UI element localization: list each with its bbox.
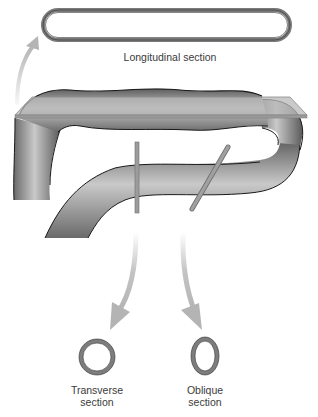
longitudinal-section-shape <box>43 10 290 40</box>
arrow-to-longitudinal-icon <box>17 36 39 105</box>
transverse-cutting-plane <box>135 142 139 213</box>
arrow-to-transverse-icon <box>110 232 136 330</box>
longitudinal-cutting-plane <box>15 97 307 118</box>
transverse-label-line2: section <box>62 396 132 408</box>
transverse-label-line1: Transverse <box>62 384 132 396</box>
oblique-section-ring <box>191 337 219 375</box>
arrow-to-oblique-icon <box>181 232 202 330</box>
transverse-section-ring <box>79 339 115 375</box>
transverse-section-label: Transverse section <box>62 384 132 408</box>
oblique-label-line1: Oblique <box>172 384 238 396</box>
longitudinal-section-label: Longitudinal section <box>110 51 230 63</box>
oblique-label-line2: section <box>172 396 238 408</box>
oblique-section-label: Oblique section <box>172 384 238 408</box>
